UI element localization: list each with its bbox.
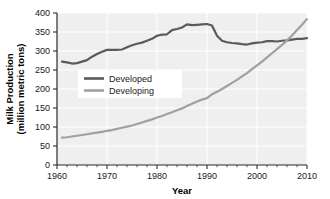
y-tick-label: 250 — [35, 65, 50, 75]
x-tick-label: 2010 — [297, 171, 317, 181]
y-axis-title-line2: (million metric tons) — [15, 44, 26, 135]
y-tick-label: 100 — [35, 122, 50, 132]
chart-legend: Developed Developing — [78, 70, 182, 98]
x-tick-label: 1970 — [97, 171, 117, 181]
x-axis-title: Year — [172, 185, 192, 196]
y-tick-label: 150 — [35, 103, 50, 113]
y-tick-label: 0 — [45, 160, 50, 170]
x-tick-label: 1960 — [47, 171, 67, 181]
y-tick-label: 200 — [35, 84, 50, 94]
y-tick-label: 300 — [35, 46, 50, 56]
chart-figure: 196019701980199020002010 050100150200250… — [0, 0, 330, 199]
legend-label-developing: Developing — [109, 86, 154, 96]
y-tick-label: 50 — [40, 141, 50, 151]
x-tick-label: 2000 — [247, 171, 267, 181]
y-axis-title-line1: Milk Production — [4, 53, 15, 124]
y-tick-label: 350 — [35, 27, 50, 37]
legend-label-developed: Developed — [109, 74, 152, 84]
y-tick-label: 400 — [35, 8, 50, 18]
milk-production-line-chart: 196019701980199020002010 050100150200250… — [0, 0, 330, 199]
x-tick-label: 1980 — [147, 171, 167, 181]
x-tick-label: 1990 — [197, 171, 217, 181]
